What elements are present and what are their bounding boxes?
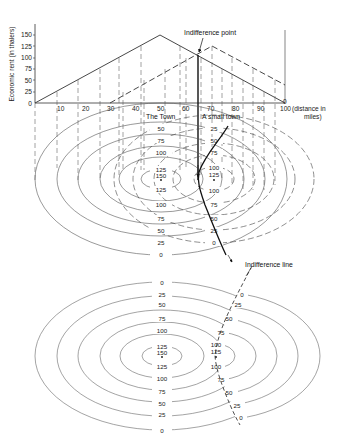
svg-text:0: 0 [239, 414, 243, 421]
town-center-value-lower: 150 [157, 349, 168, 356]
svg-text:0: 0 [159, 251, 163, 258]
y-tick-150: 150 [21, 31, 32, 38]
x-tick-100: 100 [280, 105, 291, 112]
svg-text:75: 75 [159, 388, 166, 395]
x-origin-label: 0 [283, 98, 287, 105]
x-tick-40: 40 [132, 105, 140, 112]
town-labels-upper: 50 75 100 125 150 125 100 75 50 25 0 [150, 124, 172, 258]
svg-text:75: 75 [158, 137, 165, 144]
svg-text:50: 50 [226, 315, 233, 322]
svg-text:100: 100 [157, 375, 168, 382]
indifference-line-label: Indifference line [245, 261, 293, 268]
y-tick-125: 125 [21, 43, 32, 50]
svg-text:25: 25 [158, 239, 165, 246]
svg-text:25: 25 [159, 411, 166, 418]
svg-text:50: 50 [159, 400, 166, 407]
indifference-point-arrow [199, 38, 203, 52]
x-tick-50: 50 [157, 105, 165, 112]
svg-text:75: 75 [218, 329, 225, 336]
small-town-center-dot [213, 179, 215, 181]
town-labels-lower: 0 25 50 75 100 125 150 125 100 75 50 25 … [152, 279, 172, 434]
svg-text:100: 100 [156, 201, 167, 208]
svg-text:75: 75 [159, 315, 166, 322]
town-center-dot-lower [161, 356, 163, 358]
rent-chart: 0 25 50 75 100 125 150 Economic rent (in… [8, 24, 326, 190]
x-axis-label-line2: miles) [304, 113, 322, 121]
svg-text:0: 0 [212, 239, 216, 246]
indifference-line-pointer [228, 255, 232, 262]
town-center-dot [160, 179, 162, 181]
svg-text:25: 25 [235, 301, 242, 308]
y-tick-75: 75 [25, 65, 33, 72]
y-tick-25: 25 [25, 88, 33, 95]
town-center-value-upper: 150 [156, 172, 167, 179]
svg-text:0: 0 [160, 279, 164, 286]
small-town-center-value-lower: 125 [211, 348, 222, 355]
x-tick-80: 80 [232, 105, 240, 112]
svg-text:50: 50 [158, 125, 165, 132]
small-town-labels-lower: 0 25 50 75 100 125 100 75 50 25 0 [207, 291, 248, 421]
indifference-line-lower-pointer [246, 268, 251, 276]
svg-text:100: 100 [156, 149, 167, 156]
svg-text:0: 0 [240, 291, 244, 298]
y-axis-label: Economic rent (in thalers) [8, 26, 16, 101]
y-tick-0: 0 [28, 100, 32, 107]
svg-text:100: 100 [211, 341, 222, 348]
small-town-center-value-upper: 125 [209, 171, 220, 178]
svg-text:100: 100 [157, 327, 168, 334]
y-tick-100: 100 [21, 54, 32, 61]
indifference-point-label: Indifference point [184, 29, 236, 37]
svg-text:100: 100 [209, 187, 220, 194]
x-tick-20: 20 [82, 105, 90, 112]
svg-text:125: 125 [156, 186, 167, 193]
y-tick-labels: 0 25 50 75 100 125 150 [21, 31, 32, 107]
small-town-contours-upper [114, 115, 314, 243]
svg-text:50: 50 [159, 301, 166, 308]
x-tick-10: 10 [57, 105, 65, 112]
town-label: The Town [146, 113, 176, 120]
svg-text:25: 25 [211, 125, 218, 132]
svg-text:50: 50 [158, 227, 165, 234]
upper-contour-map: 50 75 100 125 150 125 100 75 50 25 0 The… [35, 103, 314, 268]
diagram-canvas: 0 25 50 75 100 125 150 Economic rent (in… [0, 0, 345, 448]
lower-contour-map: 0 25 50 75 100 125 150 125 100 75 50 25 … [35, 266, 320, 434]
x-axis-label-line1: (distance in [292, 105, 326, 113]
svg-text:25: 25 [159, 291, 166, 298]
x-tick-90: 90 [257, 105, 265, 112]
town-rent-line [35, 35, 285, 103]
svg-text:50: 50 [226, 389, 233, 396]
svg-text:25: 25 [234, 402, 241, 409]
small-town-label: A small town [202, 113, 240, 120]
rent-gradient-diagram: 0 25 50 75 100 125 150 Economic rent (in… [0, 0, 345, 448]
y-tick-50: 50 [25, 77, 33, 84]
svg-text:0: 0 [160, 427, 164, 434]
svg-text:75: 75 [211, 201, 218, 208]
svg-text:75: 75 [158, 215, 165, 222]
x-tick-labels: 10 20 30 40 50 60 70 80 90 100 0 (distan… [57, 98, 326, 121]
svg-text:100: 100 [209, 164, 220, 171]
svg-text:125: 125 [157, 363, 168, 370]
